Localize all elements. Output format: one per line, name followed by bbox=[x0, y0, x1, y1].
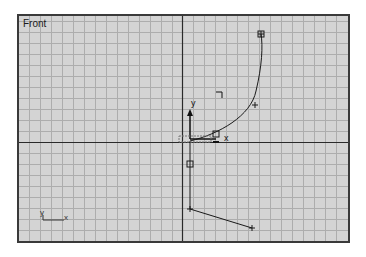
world-axes bbox=[19, 16, 348, 241]
front-viewport[interactable]: Front y x y x bbox=[17, 14, 350, 243]
viewport-label[interactable]: Front bbox=[23, 18, 46, 29]
viewport-canvas[interactable] bbox=[19, 16, 348, 241]
gizmo-x-label: x bbox=[224, 133, 229, 143]
grid bbox=[19, 16, 348, 241]
tripod-x-label: x bbox=[64, 213, 68, 222]
gizmo-y-label: y bbox=[191, 98, 196, 108]
tripod-y-label: y bbox=[40, 208, 44, 217]
